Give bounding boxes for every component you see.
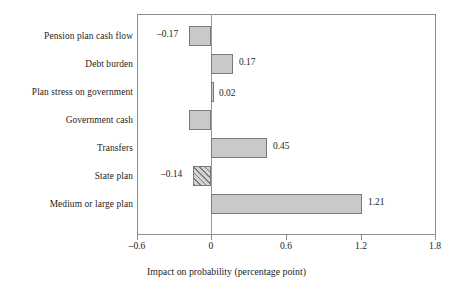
x-tick-label-4: 1.8 (429, 240, 441, 252)
x-tick-label-1: 0 (209, 240, 214, 252)
bar-chart: Pension plan cash flow Debt burden Plan … (0, 0, 453, 291)
bar-transfers (211, 138, 267, 158)
bar-plan-stress-on-government (211, 82, 214, 102)
x-tick-label-2: 0.6 (280, 240, 292, 252)
bar-series: –0.17 0.17 0.02 0.45 –0.14 1.21 (0, 14, 453, 235)
x-tick-label-0: –0.6 (129, 240, 146, 252)
bar-value-6: 1.21 (368, 197, 384, 208)
x-axis-tick-labels: –0.6 0 0.6 1.2 1.8 (0, 240, 453, 254)
x-axis-title: Impact on probability (percentage point) (0, 266, 453, 278)
bar-pension-plan-cash-flow (189, 26, 211, 46)
x-tick-label-3: 1.2 (355, 240, 367, 252)
bar-value-1: 0.17 (239, 57, 255, 68)
bar-value-2: 0.02 (219, 88, 235, 99)
bar-value-4: 0.45 (273, 141, 289, 152)
bar-value-5: –0.14 (161, 169, 182, 180)
bar-government-cash (189, 110, 211, 130)
bar-value-0: –0.17 (157, 29, 178, 40)
bar-debt-burden (211, 54, 233, 74)
bar-medium-or-large-plan (211, 194, 362, 214)
bar-state-plan (193, 166, 211, 186)
